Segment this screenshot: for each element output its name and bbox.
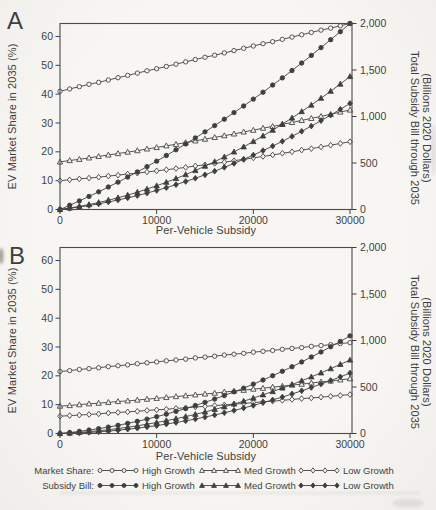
series-marker-diamond [241, 405, 246, 411]
series-marker-diamond [145, 408, 150, 414]
y-right-tick-label: 2,000 [360, 241, 386, 253]
y-left-tick-label: 0 [47, 427, 53, 439]
series-market-share-med-growth [57, 107, 352, 164]
legend-marker-diamond [311, 468, 315, 473]
plot-frame [60, 24, 352, 210]
series-marker-circle [299, 360, 303, 364]
series-marker-circle [145, 69, 149, 73]
series-marker-circle [164, 359, 168, 363]
series-marker-circle [261, 378, 265, 382]
legend-marker-circle [122, 469, 126, 473]
series-marker-circle [145, 164, 149, 168]
series-marker-circle [203, 400, 207, 404]
series-marker-circle [309, 30, 313, 34]
series-marker-diamond [183, 179, 188, 185]
series-marker-triangle [338, 81, 343, 86]
series-marker-diamond [232, 408, 237, 414]
series-marker-circle [270, 83, 274, 87]
legend-sample-market-share-high-growth [98, 469, 138, 473]
series-marker-circle [261, 349, 265, 353]
series-marker-circle [222, 393, 226, 397]
series-marker-triangle [289, 115, 294, 120]
series-marker-diamond [280, 138, 285, 144]
series-marker-diamond [106, 173, 111, 179]
series-marker-diamond [222, 410, 227, 416]
series-marker-circle [251, 44, 255, 48]
series-marker-diamond [309, 123, 314, 129]
series-marker-diamond [309, 395, 314, 401]
series-marker-diamond [319, 394, 324, 400]
series-marker-circle [280, 347, 284, 351]
series-marker-diamond [241, 157, 246, 163]
panel-b-plot: 010203040506005001,0001,5002,00001000020… [41, 241, 386, 450]
series-marker-diamond [261, 154, 266, 160]
series-marker-diamond [67, 177, 72, 183]
series-marker-diamond [106, 410, 111, 416]
series-marker-circle [154, 360, 158, 364]
series-marker-circle [77, 367, 81, 371]
legend-marker-circle [98, 484, 102, 488]
legend-sample-subsidy-bill-low-growth [299, 483, 339, 488]
series-marker-circle [106, 364, 110, 368]
series-marker-circle [135, 170, 139, 174]
series-marker-circle [290, 365, 294, 369]
legend-sample-market-share-med-growth [200, 468, 241, 473]
x-tick-label: 20000 [239, 438, 268, 450]
x-tick-label: 0 [57, 214, 63, 226]
series-marker-circle [299, 33, 303, 37]
series-marker-diamond [125, 409, 130, 415]
series-marker-diamond [164, 185, 169, 191]
series-marker-diamond [203, 172, 208, 178]
series-marker-circle [261, 41, 265, 45]
series-marker-circle [154, 159, 158, 163]
series-marker-circle [319, 45, 323, 49]
legend-market-share-high-growth-label: High Growth [142, 465, 195, 476]
series-marker-diamond [87, 412, 92, 418]
series-marker-diamond [193, 416, 198, 422]
series-marker-circle [193, 356, 197, 360]
series-marker-diamond [309, 146, 314, 152]
series-marker-diamond [338, 374, 343, 380]
series-marker-circle [183, 406, 187, 410]
series-marker-circle [309, 344, 313, 348]
dual-panel-line-chart: 010203040506005001,0001,5002,00001000020… [0, 0, 436, 510]
series-marker-diamond [193, 175, 198, 181]
y-left-tick-label: 20 [41, 145, 53, 157]
series-marker-diamond [174, 166, 179, 172]
series-marker-circle [77, 84, 81, 88]
series-marker-circle [87, 82, 91, 86]
legend-marker-samples [98, 468, 339, 488]
series-marker-circle [203, 55, 207, 59]
series-marker-diamond [319, 144, 324, 150]
series-marker-circle [270, 39, 274, 43]
panel-a-y-right-axis-title-line1: Total Subsidy Bill through 2035 [409, 51, 421, 205]
y-left-tick-label: 30 [41, 341, 53, 353]
legend-marker-circle [122, 484, 126, 488]
series-marker-circle [183, 357, 187, 361]
series-marker-diamond [328, 112, 333, 118]
x-tick-label: 30000 [335, 438, 364, 450]
legend-marker-circle [110, 484, 114, 488]
series-marker-circle [338, 339, 342, 343]
scan-smudge [0, 248, 4, 264]
series-marker-circle [96, 190, 100, 194]
scan-smudge [392, 499, 424, 508]
series-marker-circle [290, 35, 294, 39]
legend-marker-diamond [299, 468, 303, 473]
series-marker-triangle [328, 88, 333, 93]
legend-sample-subsidy-bill-high-growth [98, 484, 138, 488]
series-marker-diamond [96, 174, 101, 180]
series-marker-circle [338, 29, 342, 33]
series-marker-triangle [299, 109, 304, 114]
series-marker-diamond [183, 165, 188, 171]
series-marker-circle [309, 53, 313, 57]
legend-marker-diamond [335, 468, 339, 473]
legend-row-market-share-label: Market Share: [34, 465, 94, 476]
series-marker-diamond [338, 141, 343, 147]
panel-b-y-left-axis-title: EV Market Share in 2035 (%) [6, 268, 18, 414]
series-marker-diamond [164, 406, 169, 412]
panel-a-letter: A [7, 7, 23, 34]
series-marker-circle [319, 350, 323, 354]
series-marker-circle [212, 123, 216, 127]
scan-streak [60, 492, 420, 494]
